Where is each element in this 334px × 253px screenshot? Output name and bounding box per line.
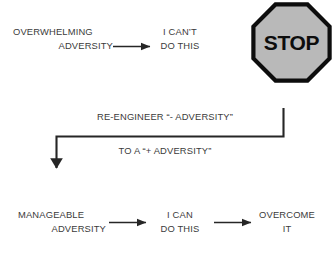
node-i-cant-do-this-line1: I CAN’T bbox=[153, 25, 207, 39]
node-manageable-adversity-line1: MANAGEABLE bbox=[18, 208, 106, 222]
node-overwhelming-adversity-line2: ADVERSITY bbox=[13, 39, 113, 53]
node-overwhelming-adversity-line1: OVERWHELMING bbox=[13, 25, 113, 39]
node-i-cant-do-this-line2: DO THIS bbox=[153, 39, 207, 53]
stop-sign: STOP bbox=[251, 2, 332, 83]
diagram-canvas: OVERWHELMING ADVERSITY I CAN’T DO THIS S… bbox=[0, 0, 334, 253]
node-overwhelming-adversity: OVERWHELMING ADVERSITY bbox=[13, 25, 113, 53]
connector-label-line2: TO A “+ ADVERSITY” bbox=[95, 144, 235, 158]
node-overcome-it: OVERCOME IT bbox=[256, 208, 318, 236]
node-i-cant-do-this: I CAN’T DO THIS bbox=[153, 25, 207, 53]
node-i-can-do-this-line1: I CAN bbox=[153, 208, 207, 222]
stop-sign-label: STOP bbox=[251, 2, 332, 83]
node-manageable-adversity: MANAGEABLE ADVERSITY bbox=[18, 208, 106, 236]
node-i-can-do-this-line2: DO THIS bbox=[153, 222, 207, 236]
node-i-can-do-this: I CAN DO THIS bbox=[153, 208, 207, 236]
node-manageable-adversity-line2: ADVERSITY bbox=[18, 222, 106, 236]
node-overcome-it-line1: OVERCOME bbox=[256, 208, 318, 222]
connector-label-line1: RE-ENGINEER “- ADVERSITY” bbox=[85, 110, 245, 124]
node-overcome-it-line2: IT bbox=[256, 222, 318, 236]
